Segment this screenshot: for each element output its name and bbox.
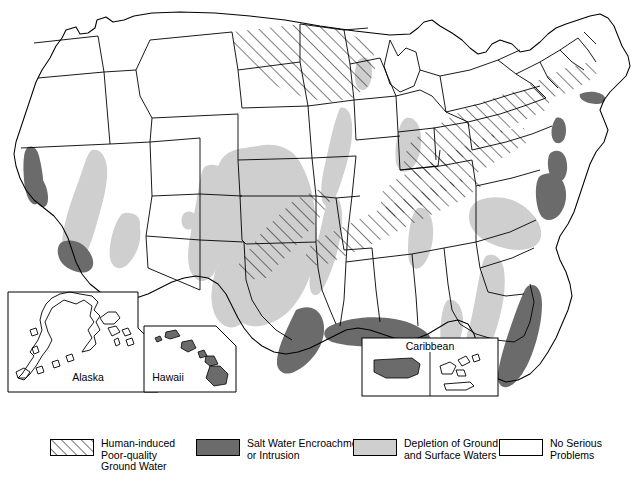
legend-swatch-hatch xyxy=(50,439,94,456)
legend-label-depletion: Depletion of Ground and Surface Waters xyxy=(404,438,498,461)
map-svg: Alaska Hawaii Caribbean xyxy=(0,0,633,482)
hawaii-inset-label: Hawaii xyxy=(152,371,184,383)
puerto-rico-shape xyxy=(374,358,420,378)
legend-swatch-dark xyxy=(196,439,240,456)
legend-label-salt-water: Salt Water Encroachment or Intrusion xyxy=(247,438,366,461)
ground-water-problems-map: Alaska Hawaii Caribbean xyxy=(0,0,633,482)
caribbean-inset-label: Caribbean xyxy=(406,340,455,352)
legend-item-depletion: Depletion of Ground and Surface Waters xyxy=(353,438,498,461)
legend-label-no-problems: No Serious Problems xyxy=(550,438,633,461)
alaska-inset: Alaska xyxy=(8,292,158,392)
legend-item-human-induced: Human-induced Poor-quality Ground Water xyxy=(50,438,175,473)
legend-label-human-induced: Human-induced Poor-quality Ground Water xyxy=(101,438,175,473)
caribbean-inset: Caribbean xyxy=(362,338,498,396)
hatch-swatch-icon xyxy=(51,440,93,455)
hawaii-inset: Hawaii xyxy=(144,326,236,392)
legend-swatch-none xyxy=(499,439,543,456)
legend-swatch-light xyxy=(353,439,397,456)
legend: Human-induced Poor-quality Ground Water … xyxy=(0,428,633,482)
legend-item-no-problems: No Serious Problems xyxy=(499,438,633,461)
legend-item-salt-water: Salt Water Encroachment or Intrusion xyxy=(196,438,366,461)
alaska-inset-label: Alaska xyxy=(72,371,104,383)
